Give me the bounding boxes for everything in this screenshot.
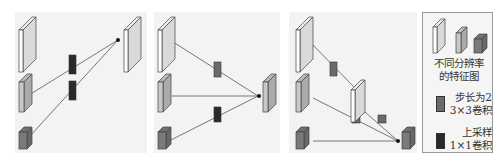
c-low-res-map	[296, 127, 309, 149]
legend-upsample-conv-label-2: 1×1卷积	[437, 139, 492, 152]
b-target-mid-res-map-front	[263, 82, 268, 112]
legend-high-res-icon-front	[433, 27, 437, 53]
c-target-low-res-map-front	[402, 132, 410, 149]
fusion-diagram	[0, 0, 420, 163]
a-high-res-map	[19, 17, 36, 72]
a-fusion-node	[116, 38, 120, 42]
a-high-res-map-front	[19, 30, 23, 72]
c-stride-conv-1	[330, 62, 337, 76]
legend: 不同分辨率 的特征图 步长为2 3×3卷积 上采样 1×1卷积	[422, 12, 493, 153]
legend-stride-conv-label-2: 3×3卷积	[437, 104, 492, 117]
a-target-high-res-map	[124, 17, 141, 72]
legend-low-res-icon-front	[474, 39, 482, 53]
b-high-res-map	[158, 17, 175, 72]
b-high-res-map-front	[158, 30, 162, 72]
legend-mid-res-icon	[456, 27, 467, 53]
a-upsample-conv-1	[69, 55, 76, 74]
a-mid-res-map-front	[19, 82, 24, 112]
legend-low-res-icon	[474, 34, 487, 53]
b-mid-res-map-front	[158, 82, 163, 112]
a-mid-res-map	[19, 74, 32, 112]
legend-feature-map-icons	[423, 13, 494, 58]
b-fusion-node	[257, 94, 261, 98]
a-low-res-map	[19, 127, 32, 149]
b-line-low-to-mid	[165, 96, 258, 143]
b-low-res-map	[158, 127, 171, 149]
c-high-res-map	[296, 17, 313, 72]
legend-feature-maps-label-1: 不同分辨率	[423, 57, 494, 70]
a-upsample-conv-2	[69, 81, 76, 100]
c-stride-conv-3	[378, 115, 386, 123]
legend-stride-conv-label-1: 步长为2	[445, 91, 492, 104]
b-stride-conv	[214, 62, 221, 77]
legend-feature-maps-label-2: 的特征图	[423, 70, 494, 83]
b-upsample-conv	[214, 107, 221, 122]
c-target-low-res-map	[402, 127, 415, 149]
c-intermediate-map-front	[351, 90, 355, 122]
b-target-mid-res-map	[263, 74, 276, 112]
legend-high-res-icon	[433, 19, 445, 53]
a-low-res-map-front	[19, 132, 27, 149]
c-low-res-map-front	[296, 132, 304, 149]
legend-mid-res-icon-front	[456, 33, 461, 53]
legend-upsample-conv-label-1: 上采样	[445, 126, 492, 139]
c-fusion-node	[396, 139, 400, 143]
c-mid-res-map	[296, 74, 309, 112]
c-high-res-map-front	[296, 30, 300, 72]
b-low-res-map-front	[158, 132, 166, 149]
a-target-high-res-map-front	[124, 30, 128, 72]
b-mid-res-map	[158, 74, 171, 112]
c-mid-res-map-front	[296, 82, 301, 112]
